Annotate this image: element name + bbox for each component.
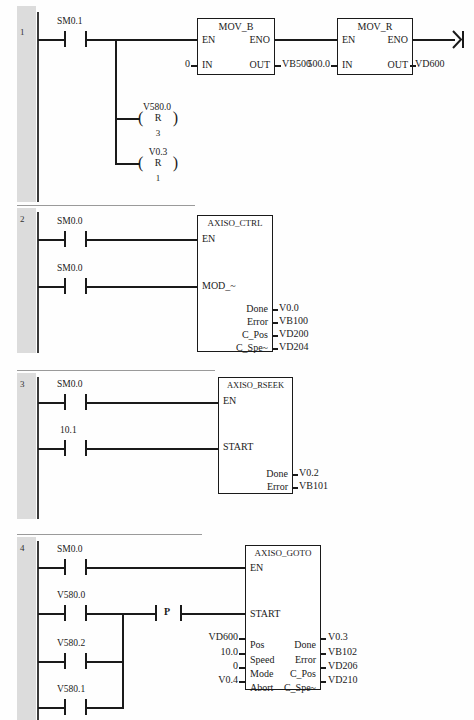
- block-axiso-rseek-error-value: VB101: [299, 480, 328, 491]
- block-axiso-goto-title: AXISO_GOTO: [246, 548, 320, 558]
- wire-rail-to-contact-4d: [38, 707, 65, 709]
- block-axiso-goto-done-stub: [320, 638, 326, 640]
- block-axiso-goto-pos-value: VD600: [190, 631, 238, 642]
- network-2-left-rail: [37, 212, 39, 353]
- block-axiso-rseek-title: AXISO_RSEEK: [219, 380, 292, 390]
- contact-sm0-0-en[interactable]: [64, 231, 87, 247]
- network-3-number: 3: [20, 379, 25, 389]
- wire-contact-4c-to-bus: [87, 661, 124, 663]
- wire-branch-to-coil-1: [115, 118, 140, 120]
- block-axiso-goto[interactable]: AXISO_GOTO EN START Pos Speed Mode Abort…: [245, 545, 321, 690]
- network-separator-2: [17, 370, 215, 371]
- wire-rail-to-contact-4c: [38, 661, 65, 663]
- contact-v580-2[interactable]: [64, 653, 87, 669]
- block-axiso-goto-cpos-stub: [320, 667, 326, 669]
- block-axiso-goto-cpos-value: VD206: [328, 660, 357, 671]
- wire-bus-to-p-contact: [122, 613, 156, 615]
- block-axiso-goto-error-value: VB102: [328, 646, 357, 657]
- contact-10-1[interactable]: [64, 440, 87, 456]
- wire-rail-to-contact-3b: [38, 448, 65, 450]
- wire-contact-2b-to-block: [87, 286, 198, 288]
- block-mov-b-title: MOV_B: [198, 21, 274, 32]
- block-axiso-goto-cspe-stub: [320, 681, 326, 683]
- wire-rail-to-contact-4b: [38, 613, 65, 615]
- contact-v580-1[interactable]: [64, 699, 87, 715]
- block-mov-r-pin-out: OUT: [387, 59, 408, 70]
- wire-contact-3a-to-block: [87, 402, 219, 404]
- block-axiso-goto-speed-stub: [239, 653, 245, 655]
- wire-contact-3b-to-block: [87, 448, 219, 450]
- branch-vertical-network-1: [115, 39, 117, 164]
- contact-sm0-0-rseek-en[interactable]: [64, 394, 87, 410]
- coil-v580-0-count: 3: [138, 128, 178, 138]
- block-axiso-ctrl-pin-error: Error: [247, 316, 268, 327]
- block-axiso-goto-pin-pos: Pos: [250, 639, 264, 650]
- contact-v580-0[interactable]: [64, 605, 87, 621]
- block-mov-b-pin-eno: ENO: [249, 34, 270, 45]
- block-axiso-rseek[interactable]: AXISO_RSEEK EN START Done Error: [218, 377, 293, 494]
- block-mov-b[interactable]: MOV_B EN ENO IN OUT: [197, 18, 275, 75]
- block-mov-b-pin-in: IN: [202, 59, 213, 70]
- block-axiso-goto-error-stub: [320, 653, 326, 655]
- block-mov-b-pin-en: EN: [202, 34, 215, 45]
- wire-p-contact-to-block: [181, 613, 246, 615]
- block-axiso-goto-pin-mode: Mode: [250, 668, 273, 679]
- block-axiso-goto-speed-value: 10.0: [190, 646, 238, 657]
- block-axiso-ctrl-done-stub: [272, 309, 278, 311]
- block-axiso-goto-pin-done: Done: [294, 639, 316, 650]
- block-axiso-goto-pos-stub: [239, 638, 245, 640]
- block-axiso-ctrl[interactable]: AXISO_CTRL EN MOD_~ Done Error C_Pos C_S…: [197, 215, 273, 352]
- block-axiso-goto-abort-value: V0.4: [190, 674, 238, 685]
- block-axiso-ctrl-done-value: V0.0: [279, 302, 299, 313]
- block-axiso-rseek-pin-done: Done: [266, 468, 288, 479]
- contact-sm0-0-goto-en-label: SM0.0: [57, 544, 83, 554]
- block-axiso-ctrl-cspe-value: VD204: [279, 341, 308, 352]
- block-mov-r[interactable]: MOV_R EN ENO IN OUT: [337, 18, 413, 75]
- contact-sm0-0-mod[interactable]: [64, 278, 87, 294]
- block-axiso-rseek-done-value: V0.2: [299, 467, 319, 478]
- rung-terminator-arrow-icon: [452, 30, 464, 48]
- coil-v0-3-count: 1: [138, 173, 178, 183]
- block-mov-r-pin-in: IN: [342, 59, 353, 70]
- wire-contact-4b-to-bus: [87, 613, 124, 615]
- block-axiso-rseek-pin-error: Error: [267, 481, 288, 492]
- wire-rail-to-contact-4a: [38, 567, 65, 569]
- coil-v580-0[interactable]: ( R ): [138, 110, 178, 128]
- block-mov-r-pin-eno: ENO: [387, 34, 408, 45]
- block-mov-b-in-stub: [191, 65, 197, 67]
- coil-paren-right: ): [173, 109, 178, 127]
- coil-v0-3[interactable]: ( R ): [138, 155, 178, 173]
- block-axiso-goto-pin-cpos: C_Pos: [290, 668, 316, 679]
- block-mov-r-out-value: VD600: [415, 58, 444, 69]
- contact-sm0-1-label: SM0.1: [57, 16, 83, 26]
- contact-sm0-0-goto-en[interactable]: [64, 559, 87, 575]
- block-axiso-rseek-pin-en: EN: [223, 395, 236, 406]
- wire-rail-to-contact-2a: [38, 239, 65, 241]
- wire-contact-4d-to-bus: [87, 707, 124, 709]
- wire-rail-to-contact-1: [38, 39, 65, 41]
- wire-rail-to-contact-3a: [38, 402, 65, 404]
- block-axiso-ctrl-error-stub: [272, 322, 278, 324]
- network-2-gutter: [17, 208, 36, 353]
- network-2-number: 2: [20, 214, 25, 224]
- block-axiso-goto-done-value: V0.3: [328, 631, 348, 642]
- block-mov-b-out-stub: [275, 65, 281, 67]
- block-axiso-rseek-pin-start: START: [223, 441, 253, 452]
- block-axiso-rseek-done-stub: [292, 474, 298, 476]
- block-axiso-rseek-error-stub: [292, 487, 298, 489]
- block-mov-r-in-stub: [331, 65, 337, 67]
- network-1-number: 1: [20, 27, 25, 37]
- network-4-gutter: [17, 537, 36, 720]
- parallel-branch-bus-network-4: [122, 613, 124, 709]
- contact-v580-0-label: V580.0: [57, 590, 85, 600]
- wire-branch-to-coil-2: [115, 163, 140, 165]
- network-4-number: 4: [20, 543, 25, 553]
- network-separator-1: [17, 205, 195, 206]
- wire-movb-eno-to-movr-en: [275, 39, 338, 41]
- block-axiso-goto-cspe-value: VD210: [328, 674, 357, 685]
- block-mov-b-pin-out: OUT: [249, 59, 270, 70]
- positive-transition-label: P: [164, 606, 170, 617]
- contact-sm0-1[interactable]: [64, 31, 87, 47]
- block-axiso-goto-mode-value: 0: [190, 660, 238, 671]
- network-3-gutter: [17, 373, 36, 519]
